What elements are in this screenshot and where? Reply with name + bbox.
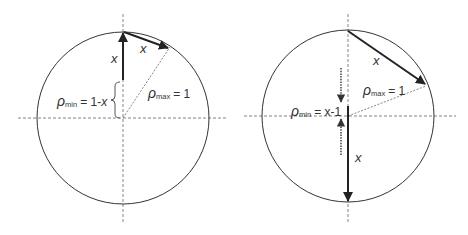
right-rho-min-label: ρmin= x-1 [290,103,341,119]
left-rho-max-label: ρmax= 1 [147,85,191,101]
left-chord-x-label: x [139,41,147,56]
left-panel [18,14,228,224]
right-panel [244,14,456,224]
left-rho-max-radius [123,47,170,118]
left-brace [111,82,120,118]
left-rho-min-label: ρmin= 1-x [56,93,108,109]
right-vertical-x-label: x [354,150,362,165]
right-chord-x-label: x [372,53,380,68]
left-vertical-x-label: x [110,51,118,66]
right-rho-max-radius [348,86,426,116]
right-rho-max-label: ρmax= 1 [362,82,406,98]
diagram-canvas: x x ρmin= 1-x ρmax= 1 x x ρmin= x-1 ρmax… [0,0,468,235]
